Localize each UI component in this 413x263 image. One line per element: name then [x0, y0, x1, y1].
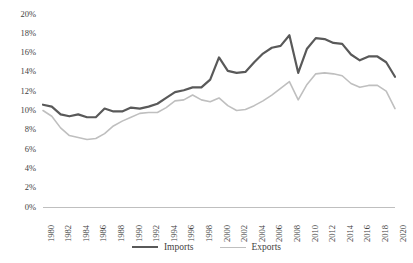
series-layer — [43, 14, 395, 207]
legend-label-exports: Exports — [252, 242, 282, 252]
y-axis-labels: 0%2%4%6%8%10%12%14%16%18%20% — [0, 0, 40, 215]
legend-item-imports: Imports — [132, 242, 194, 252]
legend-label-imports: Imports — [164, 242, 194, 252]
legend-swatch-imports — [132, 246, 158, 248]
y-tick-label: 20% — [20, 10, 36, 19]
y-tick-label: 14% — [20, 67, 36, 76]
series-line-exports — [43, 73, 395, 140]
y-tick-label: 4% — [25, 164, 36, 173]
legend-item-exports: Exports — [220, 242, 282, 252]
y-tick-label: 18% — [20, 29, 36, 38]
y-tick-label: 6% — [25, 145, 36, 154]
plot-area — [43, 14, 395, 207]
chart-legend: Imports Exports — [0, 238, 413, 256]
y-tick-label: 2% — [25, 183, 36, 192]
line-chart: 0%2%4%6%8%10%12%14%16%18%20% 19801982198… — [0, 0, 413, 263]
y-tick-label: 12% — [20, 87, 36, 96]
y-tick-label: 10% — [20, 106, 36, 115]
y-tick-label: 8% — [25, 125, 36, 134]
y-tick-label: 16% — [20, 48, 36, 57]
legend-swatch-exports — [220, 247, 246, 248]
y-tick-label: 0% — [25, 203, 36, 212]
